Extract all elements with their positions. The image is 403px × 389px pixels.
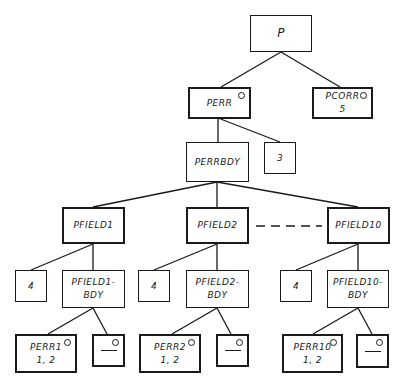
node-label: 4 xyxy=(151,280,157,293)
null-dash-icon xyxy=(365,351,381,352)
node-label: PERR xyxy=(207,97,233,110)
node-label: PFIELD2- xyxy=(196,276,240,289)
node-label: PCORR xyxy=(326,90,360,103)
node-label: PERR1 xyxy=(30,341,62,354)
node-null xyxy=(356,334,389,368)
node-null xyxy=(216,334,249,367)
circle-marker-icon xyxy=(188,339,195,346)
node-pfield1-bdy: PFIELD1-BDY xyxy=(62,270,125,308)
node-pfield10: PFIELD10 xyxy=(327,207,390,244)
node-label: PERR2 xyxy=(154,341,186,354)
node-label: PERRBDY xyxy=(195,156,241,169)
node-sublabel: 1, 2 xyxy=(36,354,55,367)
circle-marker-icon xyxy=(64,339,71,346)
node-perr10: PERR101, 2 xyxy=(282,334,343,373)
node-perr2: PERR21, 2 xyxy=(139,334,201,373)
node-sublabel: BDY xyxy=(83,289,103,302)
node-perr1: PERR11, 2 xyxy=(15,334,77,373)
node-sublabel: 1, 2 xyxy=(160,354,179,367)
node-label: PFIELD1 xyxy=(73,219,113,232)
node-label: 4 xyxy=(293,280,299,293)
null-dash-icon xyxy=(225,350,241,351)
node-label: PFIELD10 xyxy=(335,219,381,232)
circle-marker-icon xyxy=(236,339,243,346)
node-label: PERR10 xyxy=(293,341,331,354)
node-label: PFIELD1- xyxy=(72,276,116,289)
node-pfield2-bdy: PFIELD2-BDY xyxy=(186,270,249,308)
node-pfield10-bdy: PFIELD10-BDY xyxy=(327,270,389,308)
node-sublabel: BDY xyxy=(207,289,227,302)
node-4: 4 xyxy=(138,270,170,302)
node-4: 4 xyxy=(15,270,47,302)
circle-marker-icon xyxy=(360,92,367,99)
node-perrbdy: PERRBDY xyxy=(186,142,249,182)
node-label: PFIELD2 xyxy=(197,219,237,232)
circle-marker-icon xyxy=(330,339,337,346)
node-perr: PERR xyxy=(188,87,251,119)
tree-edges xyxy=(0,0,403,389)
node-sublabel: BDY xyxy=(348,289,368,302)
node-pfield1: PFIELD1 xyxy=(62,207,125,244)
node-sublabel: 5 xyxy=(339,103,345,116)
node-p: P xyxy=(250,15,312,52)
null-dash-icon xyxy=(101,350,117,351)
node-label: 4 xyxy=(28,280,34,293)
node-label: P xyxy=(277,27,285,40)
circle-marker-icon xyxy=(376,339,383,346)
node-pfield2: PFIELD2 xyxy=(186,207,249,244)
node-3: 3 xyxy=(264,142,296,174)
node-sublabel: 1, 2 xyxy=(303,354,322,367)
circle-marker-icon xyxy=(238,92,245,99)
node-pcorr: PCORR5 xyxy=(312,87,373,119)
node-null xyxy=(92,334,125,367)
circle-marker-icon xyxy=(112,339,119,346)
node-label: PFIELD10- xyxy=(333,276,383,289)
node-4: 4 xyxy=(280,270,312,302)
node-label: 3 xyxy=(277,152,283,165)
